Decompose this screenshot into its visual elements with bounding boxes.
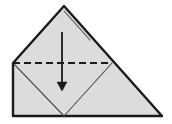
origami-diagram bbox=[0, 0, 172, 124]
origami-figure-svg bbox=[0, 0, 172, 124]
